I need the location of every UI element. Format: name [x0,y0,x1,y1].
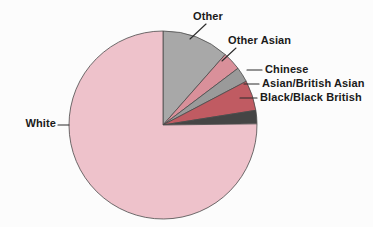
pie-chart-figure: White Other Other Asian Chinese Asian/Br… [0,0,373,227]
slice-label-white: White [16,118,56,129]
slice-label-other-asian: Other Asian [228,35,291,46]
slice-label-black-black-british: Black/Black British [260,92,362,103]
pie-slices-group [69,31,257,219]
slice-label-chinese: Chinese [265,64,309,75]
leader-line-other [190,24,206,39]
pie-chart-canvas [0,0,373,227]
slice-label-asian-british-asian: Asian/British Asian [262,78,365,89]
slice-label-other: Other [193,11,223,22]
